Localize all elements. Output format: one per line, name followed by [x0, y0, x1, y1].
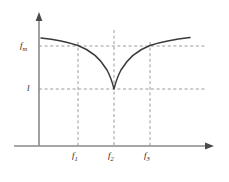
x-tick-f3-sub: 3 [147, 155, 150, 162]
curve-response [41, 38, 190, 90]
x-axis-arrow-icon [205, 143, 214, 150]
x-tick-label-f3: f3 [144, 151, 150, 162]
y-axis-arrow-icon [36, 12, 43, 21]
chart-figure: fm l f1 f2 f3 [0, 0, 229, 182]
x-tick-label-f2: f2 [108, 151, 114, 162]
y-tick-label-l: l [27, 84, 30, 93]
y-tick-l-base: l [27, 83, 30, 93]
x-tick-f2-sub: 2 [111, 155, 114, 162]
plot-area [0, 0, 229, 182]
y-tick-label-fm: fm [20, 41, 27, 52]
x-tick-f1-sub: 1 [75, 155, 78, 162]
y-tick-fm-sub: m [23, 45, 28, 52]
x-tick-label-f1: f1 [72, 151, 78, 162]
